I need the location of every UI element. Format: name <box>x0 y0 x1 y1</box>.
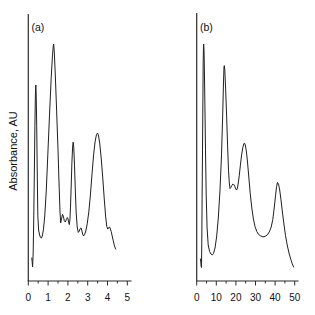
panel-label-a: (a) <box>32 21 45 33</box>
x-tick-label: 4 <box>105 292 111 303</box>
x-tick-label: 30 <box>250 292 262 303</box>
y-axis-title: Absorbance, AU <box>7 111 19 191</box>
x-tick-label: 5 <box>125 292 131 303</box>
x-tick-label: 1 <box>45 292 51 303</box>
x-tick-label: 0 <box>26 292 32 303</box>
figure-page: 012345(a)01020304050(b)Absorbance, AU <box>0 0 315 315</box>
x-tick-label: 2 <box>65 292 71 303</box>
chromatogram-figure: 012345(a)01020304050(b)Absorbance, AU <box>0 0 315 315</box>
x-tick-label: 0 <box>194 292 200 303</box>
x-tick-label: 50 <box>289 292 301 303</box>
x-tick-label: 10 <box>211 292 223 303</box>
panel-label-b: (b) <box>200 21 213 33</box>
x-tick-label: 20 <box>230 292 242 303</box>
absorbance-trace-b <box>200 44 293 268</box>
absorbance-trace-a <box>32 44 116 267</box>
x-tick-label: 3 <box>85 292 91 303</box>
x-tick-label: 40 <box>270 292 282 303</box>
